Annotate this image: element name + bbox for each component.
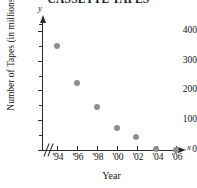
y-tick-50 xyxy=(39,135,43,136)
y-tick-100 xyxy=(38,120,43,121)
y-axis-variable-letter: y xyxy=(38,3,42,13)
data-point xyxy=(133,134,139,140)
plot-area: y x 400 300 200 100 0 '94 '96 '98 ' xyxy=(0,0,197,188)
y-tick-label-400: 400 xyxy=(161,26,197,36)
x-tick-label-06: '06 xyxy=(162,153,192,163)
y-axis-line xyxy=(42,22,43,151)
data-point xyxy=(94,104,100,110)
y-tick-label-300: 300 xyxy=(161,56,197,66)
y-axis-arrow-icon xyxy=(40,15,46,23)
data-point xyxy=(74,80,80,86)
y-tick-300 xyxy=(38,61,43,62)
y-tick-400 xyxy=(38,31,43,32)
x-axis-title: Year xyxy=(42,170,181,181)
y-tick-label-100: 100 xyxy=(161,115,197,125)
x-tick-02 xyxy=(137,146,138,151)
data-point xyxy=(54,43,60,49)
y-tick-250 xyxy=(39,76,43,77)
y-tick-350 xyxy=(39,46,43,47)
y-axis-title: Number of Tapes (in millions) xyxy=(6,0,16,118)
data-point xyxy=(114,125,120,131)
x-tick-00 xyxy=(117,146,118,151)
data-point xyxy=(173,147,179,153)
x-tick-96 xyxy=(77,146,78,151)
y-tick-450 xyxy=(39,24,43,25)
cassette-tapes-scatter-chart: CASSETTE TAPES y x 400 300 200 100 0 xyxy=(0,0,197,188)
y-tick-150 xyxy=(39,105,43,106)
y-tick-0 xyxy=(38,150,43,151)
y-tick-200 xyxy=(38,90,43,91)
x-tick-98 xyxy=(97,146,98,151)
y-tick-label-200: 200 xyxy=(161,85,197,95)
x-tick-94 xyxy=(57,146,58,151)
